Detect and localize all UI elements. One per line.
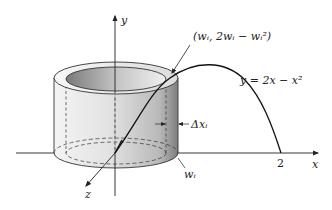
radius-label: wᵢ <box>184 168 196 181</box>
shell-method-diagram: x y z y = 2x − x² 2 (wᵢ, 2wᵢ − wᵢ²) Δxᵢ … <box>0 0 332 210</box>
delta-x-label: Δxᵢ <box>190 118 207 131</box>
z-axis-label: z <box>84 188 91 201</box>
x-axis-label: x <box>312 158 319 171</box>
radius-leader <box>178 158 185 168</box>
curve-equation-label: y = 2x − x² <box>239 74 302 87</box>
y-axis-label: y <box>120 14 128 27</box>
point-label: (wᵢ, 2wᵢ − wᵢ²) <box>193 30 271 43</box>
x-intercept-label: 2 <box>277 157 284 170</box>
